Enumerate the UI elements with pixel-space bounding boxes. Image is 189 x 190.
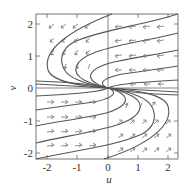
trajectories	[36, 14, 184, 159]
y-tick-label: 2	[28, 18, 34, 30]
y-tick-label: -2	[24, 147, 33, 159]
y-tick-label: 1	[28, 50, 34, 62]
y-tick-label: -1	[24, 115, 33, 127]
y-tick-label: 0	[28, 82, 34, 94]
x-tick-label: -1	[72, 161, 81, 173]
x-tick-label: 1	[135, 161, 141, 173]
y-axis-label: v	[6, 85, 18, 90]
phase-portrait: -2 -1 0 1 2 2 1 0 -1 -2 u v	[0, 0, 189, 190]
x-tick-label: 2	[165, 161, 171, 173]
plot-frame	[36, 14, 178, 159]
x-tick-label: -2	[42, 161, 51, 173]
x-tick-label: 0	[105, 161, 111, 173]
x-axis-label: u	[106, 173, 112, 185]
